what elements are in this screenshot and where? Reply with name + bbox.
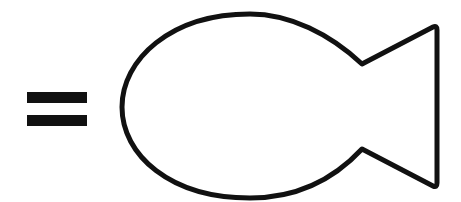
fish-icon	[0, 0, 461, 202]
